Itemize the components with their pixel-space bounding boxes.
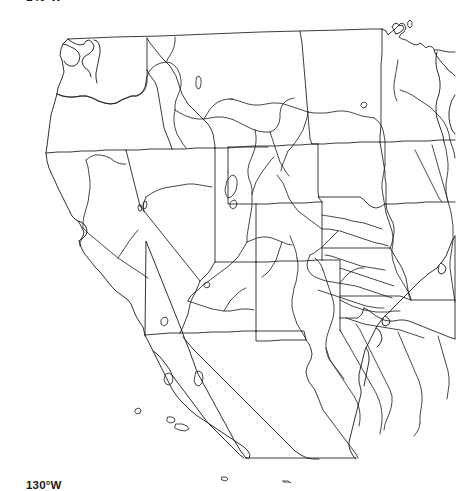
new-mexico-texas-south-border <box>256 331 306 340</box>
columbia-river-north-branch <box>166 37 175 62</box>
california-nevada-border-north <box>126 150 140 206</box>
lake-winnipeg-sliver <box>408 20 412 28</box>
vancouver-island-tip <box>94 40 100 83</box>
kansas-missouri-border <box>390 248 411 300</box>
flathead-lake <box>196 76 201 89</box>
pyramid-lake <box>143 201 147 209</box>
oregon-idaho-border <box>147 70 172 149</box>
kansas-oklahoma-border <box>340 296 411 300</box>
baja-peninsula-east-shore <box>153 351 244 458</box>
baja-islet-b <box>175 424 189 431</box>
missouri-river-upper-montana <box>230 99 308 112</box>
arizona-mexico-border <box>180 331 256 333</box>
sonora-mainland-coast <box>183 337 319 459</box>
south-platte-river <box>310 231 338 255</box>
texas-coastal-creek <box>414 423 420 436</box>
new-mexico-mexico-border <box>256 331 306 341</box>
green-river-headwaters <box>252 157 274 194</box>
canada-us-border-49th-parallel <box>68 29 382 39</box>
sabine-river <box>438 336 449 399</box>
puget-sound-inlet <box>68 39 94 77</box>
north-platte-river <box>292 203 322 229</box>
missouri-river-north-dakota <box>374 118 385 165</box>
humboldt-river <box>146 184 212 197</box>
baja-california-group <box>135 241 319 483</box>
republican-river <box>325 255 385 270</box>
rivers-texas-group <box>326 318 449 436</box>
southern-california-coastline <box>108 282 139 321</box>
niobrara-river <box>322 215 382 229</box>
central-california-coastline <box>79 241 108 282</box>
baja-islet-d <box>283 481 291 483</box>
oregon-california-border <box>46 150 126 153</box>
sacramento-river-upper <box>86 155 126 164</box>
corpus-christi-barrier-islands <box>376 328 382 347</box>
baja-islet-c <box>222 477 228 481</box>
california-mexico-border <box>145 333 180 335</box>
san-diego-coastline <box>139 321 145 335</box>
north-dakota-south-dakota-border <box>312 142 380 144</box>
mississippi-river-upper <box>436 52 444 142</box>
sacramento-river <box>83 160 90 228</box>
interior-lakes-group <box>138 20 412 326</box>
utah-lake <box>230 200 237 209</box>
oklahoma-texas-red-river <box>364 308 455 339</box>
salton-sea <box>161 317 168 326</box>
longitude-label-top-left: 140°W <box>26 0 62 3</box>
rocky-mountain-borders-group <box>147 38 340 340</box>
pecos-river <box>323 270 334 363</box>
colorado-new-mexico-border <box>256 260 322 262</box>
oregon-nevada-border <box>126 149 172 150</box>
new-mexico-oklahoma-texas-border <box>322 260 340 318</box>
sierra-nevada-tributary <box>118 230 138 258</box>
pacific-northwest-borders-group <box>46 38 172 153</box>
montana-north-dakota-border <box>300 31 312 144</box>
gulf-coastline-group <box>349 236 455 459</box>
salt-river <box>224 288 246 311</box>
trinity-river <box>398 332 422 423</box>
montana-wyoming-border <box>228 144 318 147</box>
iowa-tributary <box>432 145 448 201</box>
oklahoma-texas-panhandle-north <box>340 308 364 318</box>
canada-us-border-east-of-lake-of-woods <box>382 23 455 52</box>
arkansas-river-upper <box>307 255 392 298</box>
devils-lake <box>361 102 367 108</box>
great-salt-lake <box>225 175 237 198</box>
salmon-river <box>204 99 233 119</box>
snake-river-main <box>175 110 270 132</box>
smoky-hill-river <box>340 268 394 286</box>
mississippi-river-mid <box>444 142 455 302</box>
longitude-label-top-right: 90°W <box>418 0 447 2</box>
red-river-of-the-north <box>394 60 398 101</box>
lake-of-the-woods <box>392 23 404 34</box>
wisconsin-border-river <box>450 140 455 158</box>
idaho-montana-border-bitterroot <box>147 38 215 148</box>
colorado-river-grand-canyon-reach <box>247 237 292 245</box>
red-river-texas <box>346 318 424 338</box>
olympic-peninsula <box>63 44 80 66</box>
snake-river-tributary-east <box>270 132 289 176</box>
rio-grande-texas-mexico-border <box>306 340 358 458</box>
snake-river-hells-canyon <box>174 110 186 148</box>
baja-islet-a <box>167 417 175 423</box>
northern-border-group <box>68 23 455 52</box>
san-joaquin-river <box>83 228 148 278</box>
washington-coastline <box>57 39 68 94</box>
gila-river <box>188 301 254 311</box>
california-nevada-border-diagonal <box>140 206 200 281</box>
baja-island-cedros <box>164 373 173 385</box>
great-lakes-group <box>392 23 455 142</box>
rivers-pacific-northwest-group <box>57 37 294 194</box>
minnesota-river <box>400 90 450 140</box>
california-arizona-border-colorado-river <box>180 281 200 333</box>
wyoming-south-colorado-border <box>256 202 322 204</box>
north-platte-wyoming <box>277 175 292 203</box>
brazos-river <box>356 324 392 430</box>
arkansas-river-kansas-bend <box>340 268 364 283</box>
baja-island-angel-de-la-guarda <box>194 371 203 386</box>
baja-island-small-north <box>135 408 141 414</box>
colorado-river-main-stem <box>188 242 247 301</box>
san-francisco-bay-coast <box>70 212 84 241</box>
padre-island <box>364 348 369 386</box>
